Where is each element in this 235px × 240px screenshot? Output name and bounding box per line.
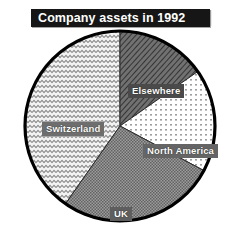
slice-label-switzerland: Switzerland (42, 122, 104, 136)
chart-plot-area: Elsewhere North America Switzerland UK (0, 24, 235, 232)
pie-chart-figure: Company assets in 1992 (0, 0, 235, 240)
slice-label-uk: UK (110, 207, 132, 221)
pie-chart-svg (0, 24, 235, 232)
slice-label-north-america: North America (143, 144, 218, 158)
slice-label-elsewhere: Elsewhere (128, 84, 184, 98)
